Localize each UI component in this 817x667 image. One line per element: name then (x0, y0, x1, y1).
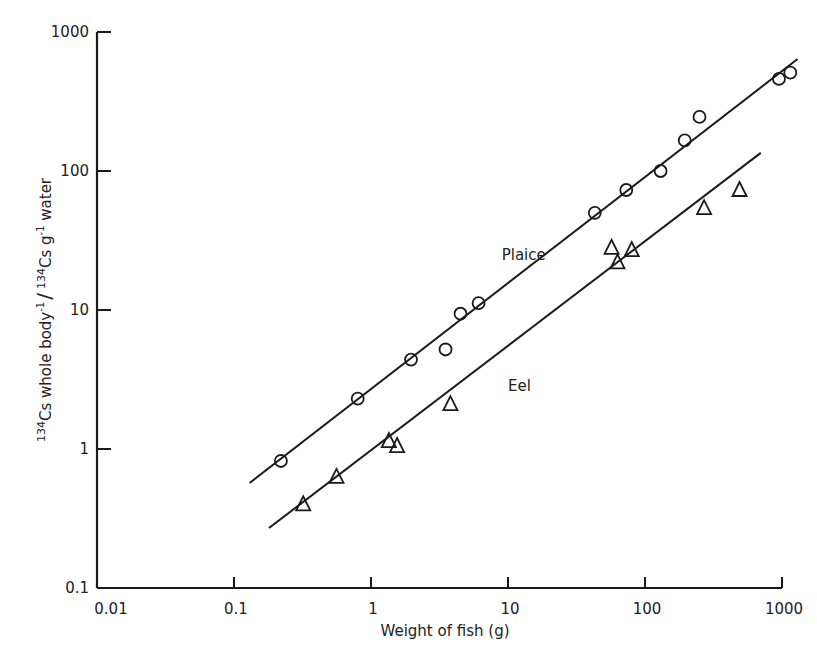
y-tick-label: 1000 (51, 23, 89, 41)
y-tick-label: 1 (79, 440, 89, 458)
circle-marker-icon (620, 184, 632, 196)
circle-marker-icon (655, 165, 667, 177)
x-axis-title: Weight of fish (g) (380, 622, 509, 640)
x-axis-ticks: 0.010.11101001000 (94, 577, 803, 618)
triangle-marker-icon (605, 240, 619, 254)
circle-marker-icon (679, 134, 691, 146)
circle-marker-icon (773, 73, 785, 85)
axes (97, 32, 782, 588)
y-tick-label: 10 (70, 301, 89, 319)
circle-marker-icon (694, 111, 706, 123)
y-tick-label: 100 (60, 162, 89, 180)
circle-marker-icon (454, 308, 466, 320)
x-tick-label: 1 (368, 600, 378, 618)
x-tick-label: 10 (500, 600, 519, 618)
data-points (275, 67, 796, 511)
eel-fit-line (269, 153, 761, 528)
triangle-marker-icon (733, 182, 747, 196)
x-tick-label: 1000 (765, 600, 803, 618)
x-tick-label: 0.1 (224, 600, 248, 618)
circle-marker-icon (405, 354, 417, 366)
y-axis-title: 134Cs whole body-1/134Cs g-1 water (32, 177, 56, 442)
series-label-eel: Eel (508, 377, 531, 395)
circle-marker-icon (440, 343, 452, 355)
series-label-plaice: Plaice (502, 246, 546, 264)
circle-marker-icon (784, 67, 796, 79)
x-tick-label: 100 (633, 600, 662, 618)
plaice-fit-line (250, 59, 798, 483)
y-tick-label: 0.1 (65, 579, 89, 597)
series-labels: PlaiceEel (502, 246, 546, 396)
triangle-marker-icon (697, 200, 711, 214)
y-axis-ticks: 0.11101001000 (51, 23, 111, 597)
x-tick-label: 0.01 (94, 600, 127, 618)
chart-canvas: 0.010.11101001000 0.11101001000 PlaiceEe… (0, 0, 817, 667)
triangle-marker-icon (443, 396, 457, 410)
fit-lines (250, 59, 798, 528)
